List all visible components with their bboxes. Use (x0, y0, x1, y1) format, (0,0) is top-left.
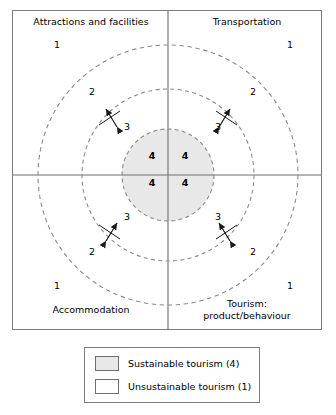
legend-label-unsustainable: Unsustainable tourism (1) (128, 381, 251, 393)
ring-label-three-top-right: 3 (211, 121, 225, 132)
legend-item-sustainable: Sustainable tourism (4) (95, 356, 239, 371)
legend-item-unsustainable: Unsustainable tourism (1) (95, 379, 251, 394)
core-label-four-bottom-left: 4 (145, 177, 159, 188)
legend-swatch-sustainable (95, 356, 119, 371)
quadrant-label-accommodation: Accommodation (16, 304, 166, 316)
ring-label-two-bottom-left: 2 (85, 246, 99, 257)
ring-label-three-bottom-left: 3 (120, 211, 134, 222)
ring-label-three-bottom-right: 3 (211, 211, 225, 222)
ring-label-two-top-left: 2 (85, 86, 99, 97)
core-label-four-bottom-right: 4 (178, 177, 192, 188)
ring-label-two-top-right: 2 (246, 86, 260, 97)
ring-label-one-top-left: 1 (50, 39, 64, 50)
core-label-four-top-left: 4 (145, 150, 159, 161)
quadrant-label-tourism-product-behaviour: Tourism: product/behaviour (172, 298, 322, 322)
ring-label-one-bottom-left: 1 (50, 280, 64, 291)
ring-label-two-bottom-right: 2 (246, 246, 260, 257)
legend-label-sustainable: Sustainable tourism (4) (128, 358, 239, 370)
quadrant-label-transportation: Transportation (172, 16, 322, 28)
legend: Sustainable tourism (4) Unsustainable to… (84, 347, 260, 403)
ring-label-one-bottom-right: 1 (283, 280, 297, 291)
core-label-four-top-right: 4 (178, 150, 192, 161)
diagram-canvas: Attractions and facilities Transportatio… (0, 0, 336, 415)
ring-label-three-top-left: 3 (120, 121, 134, 132)
legend-swatch-unsustainable (95, 379, 119, 394)
quadrant-label-attractions: Attractions and facilities (16, 16, 166, 28)
ring-label-one-top-right: 1 (283, 39, 297, 50)
